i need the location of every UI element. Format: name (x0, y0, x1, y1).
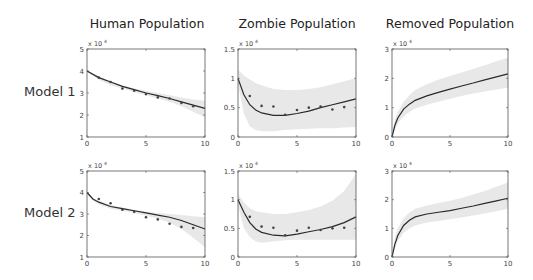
y-tick-label: 4 (80, 189, 85, 197)
data-point (249, 95, 252, 98)
x-tick-label: 0 (236, 260, 240, 268)
x-tick-label: 10 (201, 140, 210, 148)
x-tick-label: 10 (504, 140, 513, 148)
y-scale-label: x 10 (393, 162, 407, 170)
x-tick-label: 5 (144, 140, 148, 148)
y-tick-label: 2 (385, 75, 389, 83)
y-tick-label: 5 (80, 168, 84, 176)
confidence-band (238, 70, 356, 132)
x-tick-label: 5 (448, 140, 452, 148)
data-point (272, 105, 275, 108)
y-tick-label: 1 (80, 134, 84, 142)
figure-grid: 051012345x 104051000.511.5x 10405100123x… (0, 0, 533, 280)
y-scale-label: x 10 (393, 40, 407, 48)
data-point (308, 106, 311, 109)
data-point (284, 113, 287, 116)
subplot-removed-model-2: 05100123x 104 (385, 161, 513, 268)
y-tick-label: 0.5 (224, 225, 235, 233)
y-tick-label: 3 (385, 46, 389, 54)
data-point (249, 216, 252, 219)
subplot-zombie-model-2: 051000.511.5x 104 (224, 161, 361, 268)
svg-text:4: 4 (255, 39, 258, 44)
confidence-band (392, 58, 508, 137)
data-point (296, 109, 299, 112)
y-tick-label: 3 (80, 211, 84, 219)
svg-text:4: 4 (255, 161, 258, 166)
y-tick-label: 3 (385, 168, 389, 176)
x-tick-label: 5 (448, 260, 452, 268)
y-tick-label: 1 (80, 254, 84, 262)
data-point (343, 106, 346, 109)
data-point (284, 234, 287, 237)
x-tick-label: 0 (390, 260, 394, 268)
data-point (192, 227, 195, 230)
data-point (319, 105, 322, 108)
x-tick-label: 5 (295, 260, 299, 268)
x-tick-label: 10 (201, 260, 210, 268)
svg-text:4: 4 (409, 161, 412, 166)
x-tick-label: 0 (85, 260, 89, 268)
x-tick-label: 0 (390, 140, 394, 148)
svg-text:4: 4 (104, 161, 107, 166)
data-point (133, 90, 136, 93)
y-scale-label: x 10 (88, 40, 102, 48)
x-tick-label: 5 (144, 260, 148, 268)
data-point (260, 225, 263, 228)
data-point (180, 102, 183, 105)
data-point (319, 229, 322, 232)
data-point (98, 76, 101, 79)
data-point (109, 81, 112, 84)
y-tick-label: 0 (231, 134, 235, 142)
data-point (121, 87, 124, 90)
y-tick-label: 1 (231, 196, 235, 204)
y-tick-label: 0.5 (224, 104, 235, 112)
data-point (260, 105, 263, 108)
y-tick-label: 0 (231, 254, 235, 262)
subplot-human-model-1: 051012345x 104 (80, 39, 210, 148)
y-tick-label: 2 (80, 232, 84, 240)
data-point (109, 202, 112, 205)
svg-text:4: 4 (409, 39, 412, 44)
data-point (145, 93, 148, 96)
data-point (272, 226, 275, 229)
confidence-band (238, 174, 356, 243)
data-point (121, 208, 124, 211)
y-tick-label: 3 (80, 90, 84, 98)
y-tick-label: 2 (80, 112, 84, 120)
data-point (180, 226, 183, 229)
data-point (331, 108, 334, 111)
svg-text:4: 4 (104, 39, 107, 44)
data-point (157, 96, 160, 99)
y-scale-label: x 10 (239, 162, 253, 170)
y-tick-label: 1.5 (224, 46, 235, 54)
x-tick-label: 10 (504, 260, 513, 268)
y-tick-label: 0 (385, 254, 389, 262)
y-tick-label: 5 (80, 46, 84, 54)
data-point (343, 226, 346, 229)
x-tick-label: 10 (352, 260, 361, 268)
data-point (133, 211, 136, 214)
confidence-band (87, 191, 205, 247)
y-tick-label: 4 (80, 68, 85, 76)
x-tick-label: 0 (85, 140, 89, 148)
y-tick-label: 1 (231, 75, 235, 83)
x-tick-label: 5 (295, 140, 299, 148)
y-tick-label: 0 (385, 134, 389, 142)
x-tick-label: 0 (236, 140, 240, 148)
data-point (145, 216, 148, 219)
y-tick-label: 1.5 (224, 168, 235, 176)
data-point (168, 97, 171, 100)
data-point (168, 222, 171, 225)
x-tick-label: 10 (352, 140, 361, 148)
data-point (98, 198, 101, 201)
data-point (308, 226, 311, 229)
subplot-removed-model-1: 05100123x 104 (385, 39, 513, 148)
data-point (296, 229, 299, 232)
y-tick-label: 2 (385, 196, 389, 204)
y-scale-label: x 10 (88, 162, 102, 170)
y-scale-label: x 10 (239, 40, 253, 48)
y-tick-label: 1 (385, 104, 389, 112)
y-tick-label: 1 (385, 225, 389, 233)
data-point (331, 227, 334, 230)
data-point (157, 218, 160, 221)
